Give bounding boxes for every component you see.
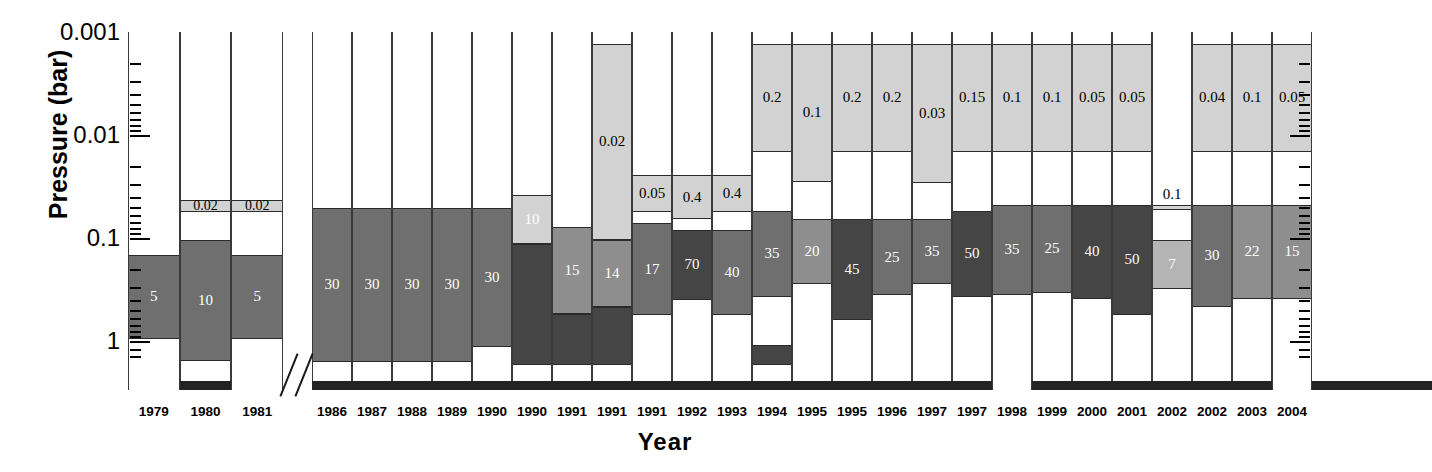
bar-segment[interactable]: 0.1 <box>793 44 831 182</box>
bar-segment[interactable] <box>593 307 631 365</box>
bar-segment[interactable]: 15 <box>1273 205 1311 299</box>
bar-segment[interactable]: 30 <box>353 208 391 362</box>
bar-segment[interactable]: 70 <box>673 230 711 300</box>
bar-column[interactable]: 0.1550 <box>952 32 992 390</box>
x-tick-label: 1992 <box>672 404 712 419</box>
bar-segment[interactable]: 0.02 <box>593 44 631 240</box>
bar-segment[interactable]: 25 <box>1033 205 1071 293</box>
bar-segment[interactable]: 14 <box>593 240 631 307</box>
bar-segment[interactable]: 5 <box>232 255 282 339</box>
bar-column[interactable]: 0.225 <box>872 32 912 390</box>
bar-segment[interactable]: 40 <box>713 230 751 315</box>
bar-column[interactable]: 30 <box>312 32 352 390</box>
bar-column[interactable]: 0.0335 <box>912 32 952 390</box>
bar-column[interactable]: 0.125 <box>1032 32 1072 390</box>
bar-segment[interactable] <box>553 314 591 364</box>
bar-segment[interactable]: 0.15 <box>953 44 991 152</box>
bar-segment[interactable]: 30 <box>313 208 351 362</box>
y-minor-tick <box>130 112 141 114</box>
y-minor-tick <box>1299 166 1310 168</box>
bar-segment[interactable]: 0.2 <box>873 44 911 152</box>
bar-column[interactable]: 0.0540 <box>1072 32 1112 390</box>
bar-column[interactable]: 0.0550 <box>1112 32 1152 390</box>
y-minor-tick <box>1299 325 1310 327</box>
x-tick-label: 1980 <box>180 404 232 419</box>
bar-segment[interactable]: 40 <box>1073 205 1111 299</box>
bar-column[interactable]: 10 <box>512 32 552 390</box>
bar-column[interactable]: 30 <box>352 32 392 390</box>
y-minor-tick <box>1299 94 1310 96</box>
bar-segment[interactable]: 0.1 <box>1033 44 1071 152</box>
bar-segment[interactable]: 0.2 <box>753 44 791 152</box>
bar-segment[interactable] <box>1153 205 1191 210</box>
bar-segment[interactable]: 30 <box>433 208 471 362</box>
bar-segment[interactable]: 22 <box>1233 205 1271 299</box>
bar-column[interactable]: 30 <box>432 32 472 390</box>
bar-segment[interactable]: 0.1 <box>993 44 1031 152</box>
bar-column[interactable]: 0.025 <box>231 32 283 390</box>
bar-column[interactable]: 0.135 <box>992 32 1032 390</box>
y-minor-tick <box>1299 300 1310 302</box>
x-tick-label: 1990 <box>472 404 512 419</box>
bar-segment[interactable]: 30 <box>393 208 431 362</box>
bar-column[interactable]: 30 <box>392 32 432 390</box>
bar-segment[interactable] <box>753 345 791 364</box>
bar-column[interactable]: 0.0214 <box>592 32 632 390</box>
bar-segment[interactable]: 35 <box>913 219 951 284</box>
x-tick-label: 1999 <box>1032 404 1072 419</box>
bar-segment[interactable]: 15 <box>553 227 591 315</box>
bar-column[interactable]: 0.120 <box>792 32 832 390</box>
bar-base-band <box>752 381 872 390</box>
bar-column[interactable]: 0.235 <box>752 32 792 390</box>
bar-segment[interactable]: 25 <box>873 219 911 296</box>
bar-segment-label: 15 <box>565 262 580 279</box>
bar-segment[interactable]: 0.4 <box>673 175 711 219</box>
bar-segment[interactable]: 50 <box>1113 205 1151 315</box>
bar-segment[interactable]: 0.2 <box>833 44 871 152</box>
bar-column[interactable]: 0.245 <box>832 32 872 390</box>
bar-column[interactable]: 0.470 <box>672 32 712 390</box>
bar-column[interactable]: 15 <box>552 32 592 390</box>
bar-segment[interactable]: 0.1 <box>1233 44 1271 152</box>
bar-segment[interactable] <box>513 244 551 364</box>
y-minor-tick <box>1299 63 1310 65</box>
bar-segment[interactable]: 30 <box>473 208 511 347</box>
bar-segment[interactable]: 50 <box>953 211 991 296</box>
bar-column[interactable]: 30 <box>472 32 512 390</box>
bar-segment[interactable]: 10 <box>513 195 551 245</box>
bar-segment[interactable]: 0.02 <box>181 200 231 212</box>
y-minor-tick <box>1290 341 1310 343</box>
bar-column[interactable]: 0.17 <box>1152 32 1192 390</box>
bar-segment[interactable]: 10 <box>181 240 231 360</box>
bar-column[interactable]: 0.0210 <box>180 32 232 390</box>
y-minor-tick <box>130 222 141 224</box>
bar-segment[interactable]: 0.05 <box>1113 44 1151 152</box>
bar-segment[interactable]: 0.02 <box>232 200 282 212</box>
x-tick-label: 1991 <box>632 404 672 419</box>
bar-segment[interactable]: 0.05 <box>633 175 671 212</box>
bar-column[interactable]: 0.122 <box>1232 32 1272 390</box>
bar-segment-label: 7 <box>1168 256 1176 273</box>
bar-segment[interactable]: 7 <box>1153 240 1191 288</box>
bar-column[interactable]: 0.0430 <box>1192 32 1232 390</box>
bar-segment[interactable]: 45 <box>833 219 871 320</box>
bar-segment[interactable]: 20 <box>793 219 831 284</box>
bar-segment[interactable]: 17 <box>633 223 671 315</box>
bar-segment[interactable]: 0.4 <box>713 175 751 212</box>
bar-segment-label: 30 <box>485 269 500 286</box>
bar-segment[interactable]: 35 <box>753 211 791 297</box>
bar-segment-label: 30 <box>445 276 460 293</box>
bar-segment[interactable]: 0.03 <box>913 44 951 183</box>
bar-segment[interactable]: 35 <box>993 205 1031 296</box>
bar-segment[interactable]: 0.04 <box>1193 44 1231 152</box>
bar-segment-label: 0.1 <box>1043 89 1062 106</box>
bar-column[interactable]: 0.0517 <box>632 32 672 390</box>
y-minor-tick <box>1299 269 1310 271</box>
y-tick-label: 0.01 <box>30 121 120 149</box>
bar-segment[interactable]: 30 <box>1193 205 1231 308</box>
y-minor-tick <box>130 238 150 240</box>
bar-segment-label: 40 <box>725 264 740 281</box>
bar-segment[interactable]: 0.05 <box>1073 44 1111 152</box>
bar-column[interactable]: 0.440 <box>712 32 752 390</box>
y-minor-tick <box>130 233 141 235</box>
